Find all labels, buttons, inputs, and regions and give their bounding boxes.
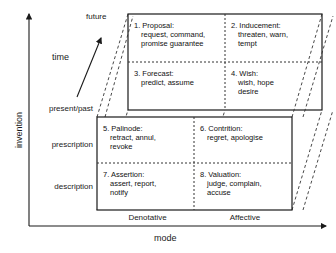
cell-5-palinode: 5. Palinode: retract, annul, revoke xyxy=(103,124,156,152)
speech-act-cube-diagram: invention mode time future present/past … xyxy=(0,0,336,253)
cell-8-item-0: judge, complain, xyxy=(200,179,262,188)
cell-4-head: 4. Wish: xyxy=(231,69,274,78)
cell-1-item-0: request, command, xyxy=(134,30,205,39)
cell-1-head: 1. Proposal: xyxy=(134,21,205,30)
cell-1-proposal: 1. Proposal: request, command, promise g… xyxy=(134,21,205,49)
cell-3-item-0: predict, assume xyxy=(134,78,194,87)
cell-2-head: 2. Inducement: xyxy=(231,21,288,30)
cell-4-item-0: wish, hope xyxy=(231,78,274,87)
depth-tick-future: future xyxy=(86,12,106,22)
cell-4-wish: 4. Wish: wish, hope desire xyxy=(231,69,274,97)
y-tick-prescription: prescription xyxy=(35,140,93,149)
cell-2-item-1: tempt xyxy=(231,39,288,48)
cell-6-contrition: 6. Contrition: regret, apologise xyxy=(200,124,263,142)
y-tick-present-past: present/past xyxy=(35,104,93,113)
cell-5-item-1: revoke xyxy=(103,142,156,151)
cell-3-forecast: 3. Forecast: predict, assume xyxy=(134,69,194,87)
cell-8-item-1: accuse xyxy=(200,188,262,197)
cell-1-item-1: promise guarantee xyxy=(134,39,205,48)
cell-5-head: 5. Palinode: xyxy=(103,124,156,133)
time-axis-arrow xyxy=(77,38,101,97)
cell-6-item-0: regret, apologise xyxy=(200,133,263,142)
x-tick-affective: Affective xyxy=(210,213,280,222)
y-axis-title: invention xyxy=(14,112,24,148)
cell-4-item-1: desire xyxy=(231,87,274,96)
cell-2-inducement: 2. Inducement: threaten, warn, tempt xyxy=(231,21,288,49)
y-tick-description: description xyxy=(35,182,93,191)
x-axis-title: mode xyxy=(154,233,177,243)
cell-8-valuation: 8. Valuation: judge, complain, accuse xyxy=(200,170,262,198)
depth-axis-title: time xyxy=(52,52,69,62)
cell-3-head: 3. Forecast: xyxy=(134,69,194,78)
cell-7-item-1: notify xyxy=(103,188,156,197)
cell-7-head: 7. Assertion: xyxy=(103,170,156,179)
cell-8-head: 8. Valuation: xyxy=(200,170,262,179)
cell-5-item-0: retract, annul, xyxy=(103,133,156,142)
cell-2-item-0: threaten, warn, xyxy=(231,30,288,39)
cell-7-assertion: 7. Assertion: assert, report, notify xyxy=(103,170,156,198)
cell-6-head: 6. Contrition: xyxy=(200,124,263,133)
x-tick-denotative: Denotative xyxy=(110,213,185,222)
cell-7-item-0: assert, report, xyxy=(103,179,156,188)
